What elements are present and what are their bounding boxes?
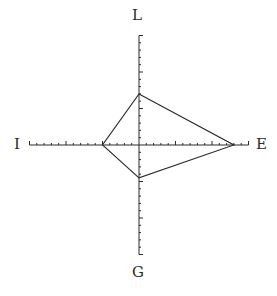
profile-polygon (103, 94, 234, 178)
axis-label-right: E (256, 137, 267, 152)
axis-label-top: L (132, 8, 142, 23)
axis-label-left: I (14, 137, 20, 152)
axes (30, 36, 249, 255)
kite-diagram (0, 0, 277, 296)
axis-label-bottom: G (132, 265, 144, 280)
